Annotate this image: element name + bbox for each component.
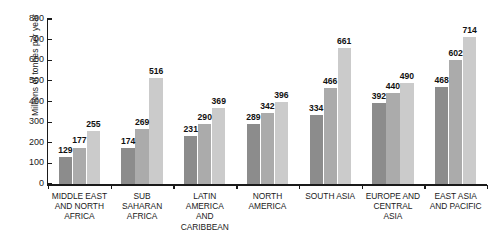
y-tick-label-wrap: 0: [12, 179, 44, 188]
bar-value-label: 129: [54, 146, 77, 155]
bar: [463, 37, 476, 184]
y-tick-label-wrap: 300: [12, 117, 44, 126]
category-label-line: AND PACIFIC: [418, 201, 493, 211]
x-tick-mark: [424, 185, 425, 189]
bar: [275, 102, 288, 184]
category-label-line: AND: [167, 211, 242, 221]
x-tick-mark: [236, 185, 237, 189]
y-tick-label: 200: [14, 138, 44, 147]
y-tick-label-wrap: 400: [12, 97, 44, 106]
bar: [400, 83, 413, 184]
category-label: EAST ASIAAND PACIFIC: [418, 191, 493, 211]
y-tick-label: 700: [14, 35, 44, 44]
y-tick-label: 0: [14, 179, 44, 188]
y-tick-label: 800: [14, 14, 44, 23]
bar-value-label: 468: [430, 76, 453, 85]
bar-value-label: 369: [207, 97, 230, 106]
bar-value-label: 516: [144, 67, 167, 76]
bar-value-label: 490: [395, 72, 418, 81]
x-tick-mark: [362, 185, 363, 189]
bar: [372, 103, 385, 184]
bar: [149, 78, 162, 184]
y-tick-label: 600: [14, 55, 44, 64]
bar-value-label: 440: [381, 82, 404, 91]
bar: [59, 157, 72, 184]
bar-value-label: 255: [82, 120, 105, 129]
bar: [324, 88, 337, 184]
category-label-line: CARIBBEAN: [167, 222, 242, 232]
bar: [121, 148, 134, 184]
bar: [261, 113, 274, 184]
y-tick-label: 300: [14, 117, 44, 126]
x-axis-line: [47, 184, 487, 186]
x-tick-mark: [111, 185, 112, 189]
bar-value-label: 342: [256, 102, 279, 111]
bar: [338, 48, 351, 184]
category-label-line: EAST ASIA: [418, 191, 493, 201]
x-tick-mark: [173, 185, 174, 189]
y-tick-label: 100: [14, 158, 44, 167]
category-label-line: ASIA: [356, 211, 431, 221]
bar-value-label: 177: [68, 136, 91, 145]
bar-value-label: 602: [444, 49, 467, 58]
bar: [310, 115, 323, 184]
y-tick-label-wrap: 600: [12, 55, 44, 64]
bar-value-label: 289: [242, 113, 265, 122]
bar: [386, 93, 399, 184]
category-label-line: AMERICA: [230, 201, 305, 211]
bar-chart: Millions of tonnes per year 010020030040…: [0, 0, 495, 246]
y-tick-label: 500: [14, 76, 44, 85]
bar-value-label: 269: [130, 118, 153, 127]
y-tick-label-wrap: 200: [12, 138, 44, 147]
y-tick-label-wrap: 700: [12, 35, 44, 44]
bar: [184, 136, 197, 184]
bar-value-label: 392: [367, 92, 390, 101]
bar: [247, 124, 260, 184]
bar-value-label: 661: [333, 37, 356, 46]
y-tick-label-wrap: 100: [12, 158, 44, 167]
bar-value-label: 466: [319, 77, 342, 86]
bar-value-label: 231: [179, 125, 202, 134]
bar-value-label: 714: [458, 26, 481, 35]
x-tick-mark: [48, 185, 49, 189]
bar-value-label: 290: [193, 113, 216, 122]
bar-value-label: 396: [270, 91, 293, 100]
y-tick-label: 400: [14, 97, 44, 106]
bar-value-label: 174: [116, 137, 139, 146]
y-tick-label-wrap: 800: [12, 14, 44, 23]
bar-value-label: 334: [305, 104, 328, 113]
bar: [435, 87, 448, 184]
x-tick-mark: [299, 185, 300, 189]
y-tick-label-wrap: 500: [12, 76, 44, 85]
x-tick-mark: [487, 185, 488, 189]
